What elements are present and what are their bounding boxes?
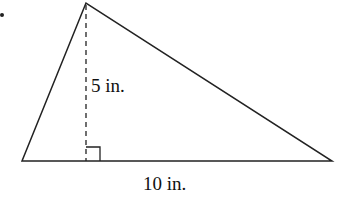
bullet-dot <box>0 13 4 17</box>
triangle-diagram: 5 in. 10 in. <box>0 0 342 202</box>
base-label: 10 in. <box>143 173 186 194</box>
height-label: 5 in. <box>91 75 125 96</box>
right-angle-marker <box>86 147 100 161</box>
triangle <box>22 3 332 161</box>
